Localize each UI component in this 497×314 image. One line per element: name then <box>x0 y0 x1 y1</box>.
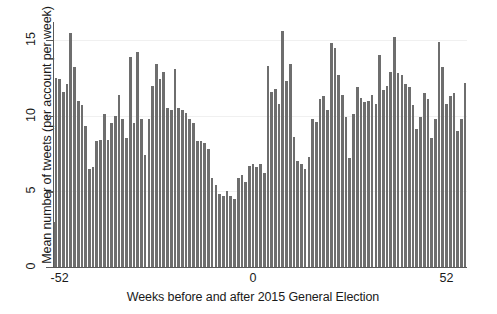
bar <box>170 110 173 267</box>
bar <box>345 117 348 267</box>
bar <box>259 164 262 267</box>
bar <box>356 87 359 267</box>
bar <box>326 110 329 267</box>
bar <box>397 73 400 267</box>
bar <box>255 167 258 267</box>
y-tick-label: 0 <box>24 255 38 277</box>
bar <box>95 141 98 267</box>
bar <box>136 52 139 267</box>
bar <box>252 164 255 267</box>
y-tick-label: 15 <box>24 28 38 50</box>
bar <box>84 126 87 267</box>
y-tick-label: 10 <box>24 104 38 126</box>
bar <box>118 95 121 267</box>
bar <box>166 108 169 267</box>
bar <box>203 143 206 267</box>
bar <box>311 119 314 267</box>
bar <box>229 196 232 267</box>
bar <box>155 64 158 267</box>
bar <box>270 92 273 267</box>
y-tick-mark <box>46 40 53 41</box>
bar <box>445 104 448 267</box>
bar <box>330 43 333 267</box>
bar <box>453 93 456 267</box>
bar <box>81 105 84 267</box>
bar <box>382 90 385 267</box>
bar <box>192 123 195 267</box>
x-tick-label: -52 <box>40 271 80 285</box>
bar <box>352 114 355 267</box>
bar <box>188 119 191 267</box>
bar <box>237 178 240 267</box>
bar <box>378 55 381 267</box>
bar <box>144 155 147 267</box>
bar <box>449 96 452 267</box>
bar <box>121 119 124 267</box>
bar <box>363 102 366 267</box>
bar <box>427 99 430 267</box>
bar <box>300 164 303 267</box>
bar <box>401 75 404 267</box>
bar <box>278 104 281 267</box>
bar <box>334 48 337 267</box>
bar <box>244 182 247 267</box>
bar <box>218 194 221 267</box>
bar <box>241 175 244 267</box>
bar <box>375 104 378 267</box>
bar <box>438 42 441 267</box>
bar <box>207 149 210 267</box>
bar <box>226 191 229 267</box>
bar <box>148 119 151 267</box>
bar <box>337 75 340 267</box>
bar <box>181 110 184 267</box>
bar <box>211 178 214 267</box>
bar <box>110 123 113 267</box>
chart-figure: Mean number of tweets (per account per w… <box>0 0 497 314</box>
bar <box>58 79 61 267</box>
x-axis-line <box>53 267 467 268</box>
x-tick-label: 0 <box>233 271 273 285</box>
bar <box>308 157 311 267</box>
bar <box>319 99 322 267</box>
bar <box>289 64 292 267</box>
bar <box>274 89 277 267</box>
bar <box>162 72 165 267</box>
bar <box>114 116 117 267</box>
bar <box>185 113 188 267</box>
bar <box>125 138 128 267</box>
bar <box>441 67 444 267</box>
bar <box>103 114 106 267</box>
bar <box>174 69 177 267</box>
bar <box>233 199 236 267</box>
bar <box>107 140 110 267</box>
bar <box>215 185 218 267</box>
bar <box>177 108 180 267</box>
bar <box>92 167 95 267</box>
x-axis-title: Weeks before and after 2015 General Elec… <box>53 290 453 304</box>
bar <box>360 98 363 267</box>
bar <box>140 119 143 267</box>
bar <box>54 222 57 267</box>
bar <box>322 96 325 267</box>
bar <box>263 173 266 267</box>
bar <box>341 95 344 267</box>
bar <box>285 81 288 267</box>
bar <box>248 166 251 267</box>
bar <box>460 119 463 267</box>
bar <box>434 119 437 267</box>
bar <box>304 169 307 267</box>
bar <box>315 122 318 267</box>
bar <box>430 138 433 267</box>
bar <box>348 158 351 267</box>
y-tick-mark <box>46 191 53 192</box>
bar <box>62 92 65 267</box>
x-tick-label: 52 <box>427 271 467 285</box>
bar <box>296 161 299 267</box>
bar <box>293 137 296 267</box>
bar <box>196 141 199 267</box>
bar <box>456 131 459 267</box>
bar <box>99 140 102 267</box>
bar <box>423 93 426 267</box>
bar <box>367 101 370 267</box>
y-tick-mark <box>46 267 53 268</box>
